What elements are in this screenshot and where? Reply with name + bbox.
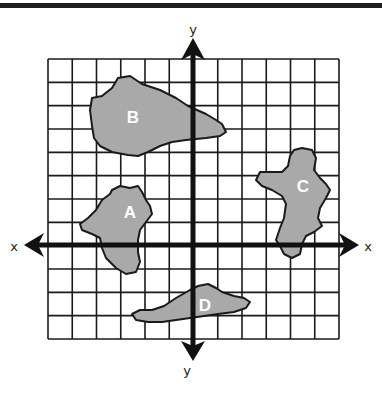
shape-b: B bbox=[90, 76, 226, 156]
shape-b-label: B bbox=[127, 108, 139, 127]
shape-a-label: A bbox=[124, 203, 136, 222]
x-axis-label-left: x bbox=[10, 239, 18, 254]
shape-c-label: C bbox=[297, 177, 309, 196]
y-axis-label-top: y bbox=[189, 22, 197, 37]
y-axis-label-bottom: y bbox=[183, 363, 191, 378]
x-axis-label-right: x bbox=[364, 239, 372, 254]
shape-d-label: D bbox=[199, 296, 211, 315]
coordinate-plane: B A C D x x y y bbox=[0, 0, 382, 397]
shape-c: C bbox=[256, 148, 330, 258]
